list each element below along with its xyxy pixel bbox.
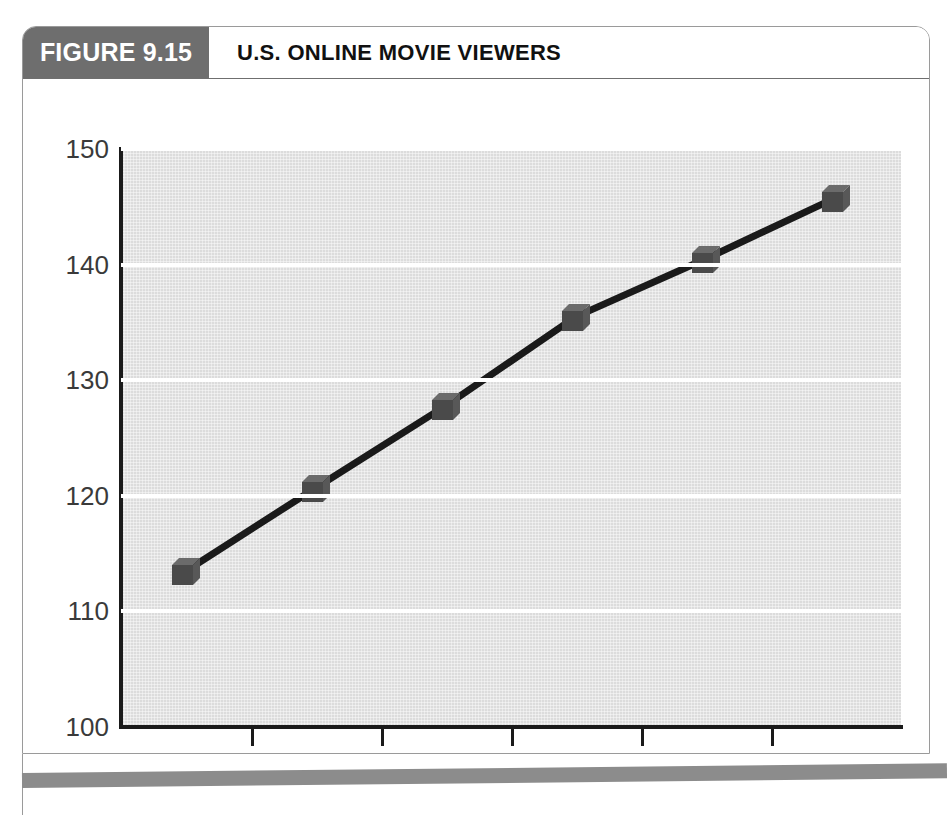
data-point-marker bbox=[561, 302, 591, 332]
chart-region: 100110120130140150 201520162017201820192… bbox=[23, 80, 929, 754]
gridline-140 bbox=[121, 263, 901, 267]
figure-number-badge: FIGURE 9.15 bbox=[23, 27, 209, 78]
data-point-marker bbox=[301, 473, 331, 503]
y-tick-label-130: 130 bbox=[33, 365, 109, 396]
x-tick-label-2015: 2015 bbox=[131, 752, 241, 754]
x-tick-label-2017: 2017 bbox=[391, 752, 501, 754]
x-tick-1 bbox=[251, 729, 254, 746]
footer-rule bbox=[22, 763, 947, 788]
x-tick-3 bbox=[511, 729, 514, 746]
x-tick-label-2020: 2020 bbox=[781, 752, 891, 754]
x-tick-4 bbox=[641, 729, 644, 746]
data-point-marker bbox=[171, 556, 201, 586]
y-axis-line bbox=[119, 147, 123, 729]
figure-header: FIGURE 9.15 U.S. ONLINE MOVIE VIEWERS bbox=[23, 27, 929, 79]
data-point-marker bbox=[821, 183, 851, 213]
x-tick-label-2018: 2018 bbox=[521, 752, 631, 754]
gridline-120 bbox=[121, 494, 901, 498]
figure-title: U.S. ONLINE MOVIE VIEWERS bbox=[209, 27, 929, 78]
gridline-130 bbox=[121, 378, 901, 382]
figure-container: FIGURE 9.15 U.S. ONLINE MOVIE VIEWERS 10… bbox=[22, 26, 930, 754]
data-point-marker bbox=[431, 391, 461, 421]
y-tick-label-150: 150 bbox=[33, 134, 109, 165]
plot-area bbox=[121, 149, 901, 727]
x-tick-5 bbox=[771, 729, 774, 746]
y-tick-label-140: 140 bbox=[33, 249, 109, 280]
gridline-110 bbox=[121, 609, 901, 613]
gridline-150 bbox=[121, 147, 901, 151]
y-tick-label-120: 120 bbox=[33, 480, 109, 511]
x-tick-label-2016: 2016 bbox=[261, 752, 371, 754]
x-tick-2 bbox=[381, 729, 384, 746]
figure-page: FIGURE 9.15 U.S. ONLINE MOVIE VIEWERS 10… bbox=[0, 0, 947, 815]
y-tick-label-100: 100 bbox=[33, 712, 109, 743]
x-tick-label-2019: 2019 bbox=[651, 752, 761, 754]
data-point-marker bbox=[691, 244, 721, 274]
y-tick-label-110: 110 bbox=[33, 596, 109, 627]
